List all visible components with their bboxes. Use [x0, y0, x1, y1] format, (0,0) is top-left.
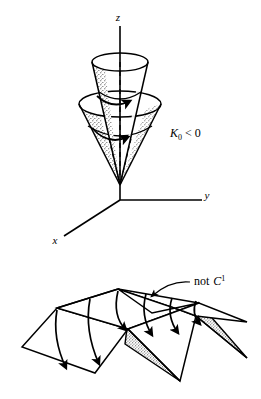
figure-root: z y x K0<0 [0, 0, 261, 399]
curvature-value: 0 [195, 126, 201, 140]
x-axis-label: x [52, 234, 58, 246]
z-axis-label: z [115, 11, 121, 23]
curvature-relation: < [185, 126, 192, 140]
not-c1-prefix: not [194, 274, 210, 288]
curvature-condition-label: K0<0 [169, 126, 201, 142]
not-c1-superscript: 1 [221, 274, 225, 283]
curvature-subscript: 0 [178, 133, 182, 142]
y-axis-label: y [204, 189, 210, 201]
mathematical-figure-canvas: z y x K0<0 [0, 0, 261, 399]
